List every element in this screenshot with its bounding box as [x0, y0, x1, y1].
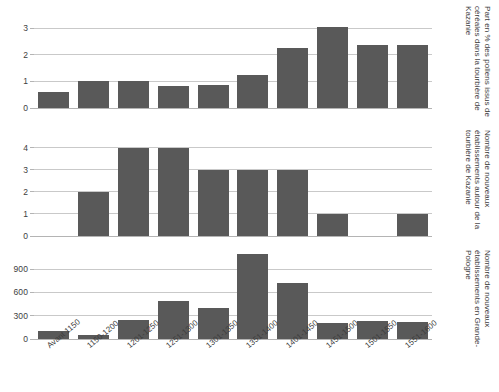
y-tick-label: 1 [23, 77, 28, 86]
chart-panel-pollen: 0123 Part en % des pollens issus de céré… [0, 0, 499, 120]
bar [397, 214, 428, 236]
bar [158, 148, 189, 236]
plot-area-chart2 [34, 139, 432, 236]
bar [317, 27, 348, 108]
bars-chart1 [34, 20, 432, 108]
y-axis-title-chart2: Nombre de nouveaux établissements autour… [452, 130, 492, 246]
y-tick-label: 900 [14, 265, 28, 274]
bars-chart2 [34, 139, 432, 236]
y-tick-label: 0 [23, 232, 28, 241]
bar [158, 86, 189, 108]
bar [237, 75, 268, 108]
y-tick-label: 2 [23, 50, 28, 59]
bar [277, 170, 308, 236]
x-axis-ticks: Avant 11501150-12001201-12501251-1300130… [0, 344, 499, 392]
plot-area-chart1 [34, 20, 432, 108]
bar [118, 81, 149, 108]
y-axis-ticks-chart2: 01234 [0, 128, 32, 246]
bar [317, 214, 348, 236]
bar [198, 170, 229, 236]
bar [198, 85, 229, 108]
y-tick-label: 0 [23, 104, 28, 113]
bar [277, 48, 308, 108]
y-tick-label: 3 [23, 166, 28, 175]
y-axis-title-chart3: Nombre de nouveaux établissements en Gra… [452, 250, 492, 354]
y-tick-label: 2 [23, 188, 28, 197]
y-tick-label: 1 [23, 210, 28, 219]
chart-panel-etablissements-kazanie: 01234 Nombre de nouveaux établissements … [0, 128, 499, 246]
y-tick-label: 300 [14, 311, 28, 320]
y-tick-label: 600 [14, 288, 28, 297]
figure-root: 0123 Part en % des pollens issus de céré… [0, 0, 499, 392]
y-axis-title-chart1: Part en % des pollens issus de céréales … [452, 6, 492, 118]
bar [78, 192, 109, 236]
y-tick-label: 3 [23, 24, 28, 33]
y-tick-label: 0 [23, 335, 28, 344]
bar [38, 92, 69, 108]
y-axis-ticks-chart1: 0123 [0, 0, 32, 120]
bar [357, 45, 388, 108]
bar [237, 170, 268, 236]
bar [78, 81, 109, 108]
chart-panel-etablissements-pologne: 0300600900 Avant 11501150-12001201-12501… [0, 252, 499, 392]
bar [397, 45, 428, 108]
y-tick-label: 4 [23, 144, 28, 153]
bar [118, 148, 149, 236]
